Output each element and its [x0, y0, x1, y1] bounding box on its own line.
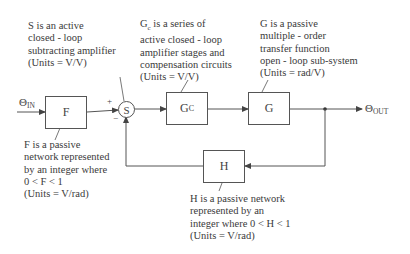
minus-sign: − [113, 113, 118, 123]
note-line: by an integer where [24, 164, 109, 176]
note-line: (Units = V/rad) [190, 230, 290, 242]
note-line: S is an active [28, 20, 116, 32]
note-f: F is a passive network represented by an… [24, 139, 109, 200]
note-line: (Units = V/rad) [24, 188, 109, 200]
note-text: is a series of [151, 18, 206, 29]
note-h: H is a passive network represented by an… [190, 193, 290, 242]
note-line: transfer function [260, 43, 358, 55]
block-g-label: G [265, 101, 274, 116]
block-gc-subscript: C [189, 104, 194, 113]
note-line: active closed - loop [140, 34, 232, 46]
block-g: G [248, 92, 290, 125]
note-g: G is a passive multiple - order transfer… [260, 18, 358, 79]
theta-symbol: Θ [365, 102, 373, 114]
input-subscript: IN [27, 101, 35, 110]
block-f: F [45, 96, 87, 129]
note-line: (Units = V/V) [28, 57, 116, 69]
note-line: (Units = V/V) [140, 71, 232, 83]
note-line: subtracting amplifier [28, 45, 116, 57]
note-line: represented by an [190, 205, 290, 217]
note-line: amplifier stages and [140, 47, 232, 59]
summing-junction-s: S [118, 101, 135, 118]
block-h: H [203, 150, 245, 183]
note-line: (Units = rad/V) [260, 67, 358, 79]
note-line: multiple - order [260, 30, 358, 42]
note-line: compensation circuits [140, 59, 232, 71]
note-line: 0 < F < 1 [24, 176, 109, 188]
output-signal-label: ΘOUT [365, 102, 388, 116]
block-gc: GC [166, 92, 208, 125]
plus-sign: + [107, 96, 112, 106]
note-line: open - loop sub-system [260, 55, 358, 67]
note-line: G is a passive [260, 18, 358, 30]
block-gc-label: G [180, 101, 189, 116]
note-s: S is an active closed - loop subtracting… [28, 20, 116, 69]
output-subscript: OUT [373, 107, 388, 116]
note-line: F is a passive [24, 139, 109, 151]
note-symbol: G [140, 18, 148, 29]
note-line: closed - loop [28, 32, 116, 44]
input-signal-label: ΘIN [19, 96, 35, 110]
note-line: network represented [24, 151, 109, 163]
note-gc: Gc is a series of active closed - loop a… [140, 18, 232, 84]
note-line: Gc is a series of [140, 18, 232, 34]
block-f-label: F [63, 105, 70, 120]
note-line: H is a passive network [190, 193, 290, 205]
summing-junction-label: S [123, 104, 129, 116]
theta-symbol: Θ [19, 96, 27, 108]
note-line: integer where 0 < H < 1 [190, 218, 290, 230]
block-h-label: H [220, 159, 229, 174]
